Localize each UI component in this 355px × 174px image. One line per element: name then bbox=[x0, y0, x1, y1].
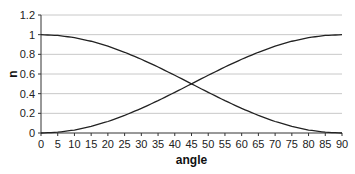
x-tick-label: 80 bbox=[302, 138, 314, 150]
x-tick-label: 15 bbox=[85, 138, 97, 150]
y-tick-label: 0.2 bbox=[20, 107, 35, 119]
x-tick-label: 0 bbox=[38, 138, 44, 150]
y-tick-label: 0.8 bbox=[20, 48, 35, 60]
series-line-2 bbox=[41, 35, 342, 133]
x-tick-label: 10 bbox=[68, 138, 80, 150]
x-tick-label: 35 bbox=[152, 138, 164, 150]
x-tick-label: 30 bbox=[135, 138, 147, 150]
line-chart: 00.20.40.60.811.205101520253035404550556… bbox=[0, 0, 355, 174]
x-axis-label: angle bbox=[176, 153, 208, 167]
y-tick-label: 1 bbox=[29, 29, 35, 41]
x-tick-label: 75 bbox=[286, 138, 298, 150]
x-tick-label: 65 bbox=[252, 138, 264, 150]
x-tick-label: 40 bbox=[169, 138, 181, 150]
x-tick-label: 55 bbox=[219, 138, 231, 150]
y-tick-label: 0.6 bbox=[20, 68, 35, 80]
y-tick-label: 0 bbox=[29, 127, 35, 139]
x-tick-label: 60 bbox=[236, 138, 248, 150]
y-axis-label: n bbox=[6, 70, 20, 77]
x-tick-label: 25 bbox=[118, 138, 130, 150]
x-tick-label: 20 bbox=[102, 138, 114, 150]
x-tick-label: 50 bbox=[202, 138, 214, 150]
y-tick-label: 1.2 bbox=[20, 9, 35, 21]
x-tick-label: 5 bbox=[55, 138, 61, 150]
x-tick-label: 90 bbox=[336, 138, 348, 150]
x-tick-label: 85 bbox=[319, 138, 331, 150]
x-tick-label: 70 bbox=[269, 138, 281, 150]
x-tick-label: 45 bbox=[185, 138, 197, 150]
y-tick-label: 0.4 bbox=[20, 88, 35, 100]
